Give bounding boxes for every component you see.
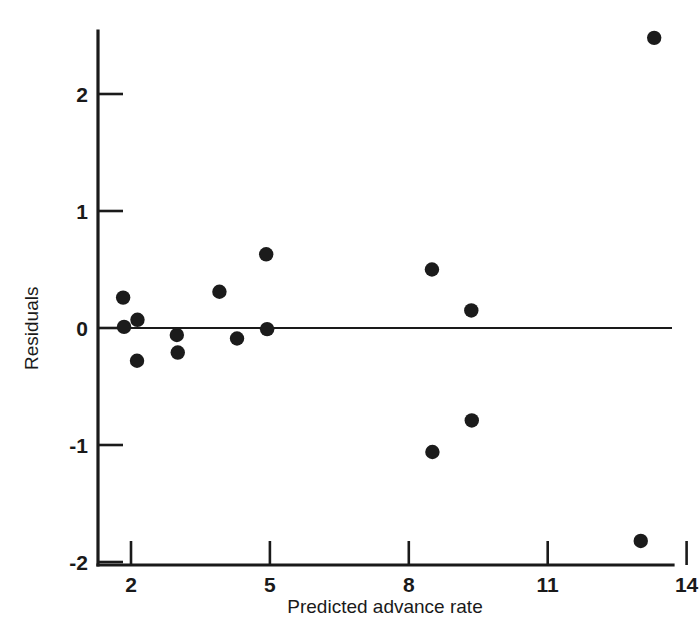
y-axis-title: Residuals	[21, 287, 42, 370]
data-point	[117, 320, 131, 334]
data-point	[647, 31, 661, 45]
plot-canvas: 210-1-2 2581114 Residuals Predicted adva…	[0, 0, 700, 629]
data-point	[116, 290, 130, 304]
data-point	[465, 413, 479, 427]
data-point	[464, 303, 478, 317]
x-axis-ticks	[131, 541, 687, 565]
y-axis-tick-labels: 210-1-2	[69, 83, 88, 574]
data-point	[259, 247, 273, 261]
y-tick-label: 1	[76, 200, 88, 223]
x-axis-title: Predicted advance rate	[287, 596, 482, 617]
data-point	[171, 345, 185, 359]
y-tick-label: 2	[76, 83, 88, 106]
x-tick-label: 2	[125, 573, 137, 596]
data-points-group	[116, 31, 661, 549]
x-tick-label: 14	[675, 573, 699, 596]
data-point	[130, 354, 144, 368]
data-point	[425, 262, 439, 276]
data-point	[634, 534, 648, 548]
data-point	[230, 331, 244, 345]
y-tick-label: -1	[69, 434, 88, 457]
y-tick-label: 0	[76, 317, 88, 340]
x-tick-label: 11	[537, 573, 560, 596]
y-tick-label: -2	[69, 551, 88, 574]
axis-lines	[98, 31, 673, 565]
scatter-plot-figure: 210-1-2 2581114 Residuals Predicted adva…	[0, 0, 700, 629]
data-point	[425, 445, 439, 459]
data-point	[212, 285, 226, 299]
x-axis-tick-labels: 2581114	[125, 573, 698, 596]
data-point	[260, 322, 274, 336]
x-tick-label: 8	[403, 573, 415, 596]
data-point	[130, 313, 144, 327]
x-tick-label: 5	[264, 573, 276, 596]
data-point	[170, 328, 184, 342]
